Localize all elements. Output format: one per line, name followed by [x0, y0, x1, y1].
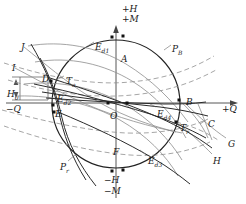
label-Ed1: Ed1	[95, 43, 109, 54]
gray-curve-J	[24, 47, 176, 132]
marker-pt-origin-1	[107, 102, 110, 105]
label-A-text: A	[121, 54, 128, 64]
label-F: F	[113, 148, 119, 157]
label-O-text: O	[110, 111, 117, 121]
label-J-text: J	[21, 42, 25, 52]
label-E-text: E	[55, 109, 62, 119]
label-Ed1-text: E	[95, 42, 102, 52]
label-PB: PB	[172, 45, 182, 56]
label-Ed2-text: E	[57, 94, 64, 104]
axis-label-minus-h: −H	[104, 176, 119, 185]
marker-pt-bot-1	[111, 170, 114, 173]
marker-pt-bot-2	[122, 169, 125, 172]
label-G-text: G	[228, 139, 235, 149]
marker-pt-origin-2	[126, 102, 129, 105]
marker-pt-B	[178, 99, 181, 102]
label-B-text: B	[186, 97, 193, 107]
leader-PB	[164, 45, 171, 50]
axis-label-minus-q: −Q	[6, 105, 21, 114]
label-H-text: H	[213, 156, 221, 166]
label-Tr: Tr	[180, 124, 189, 135]
label-B: B	[186, 98, 193, 107]
label-Pr-subscript: r	[66, 167, 69, 174]
label-A: A	[121, 55, 128, 64]
label-H: H	[213, 157, 221, 166]
label-D: D	[42, 75, 49, 84]
diagram-canvas	[0, 0, 246, 204]
marker-pt-E	[52, 104, 55, 107]
label-H0: H0	[7, 90, 19, 101]
axis-label-plus-h: +H	[122, 5, 137, 14]
label-Ed3-text: E	[148, 156, 155, 166]
label-F-text: F	[113, 147, 119, 157]
axis-label-plus-m: +M	[122, 15, 139, 24]
label-Ed4-subscript: d4	[164, 114, 172, 121]
leader-line-group	[56, 42, 206, 161]
label-C: C	[208, 120, 215, 129]
label-I: I	[12, 64, 16, 73]
label-Ed2-subscript: d2	[64, 99, 72, 106]
label-Ed1-subscript: d1	[102, 47, 110, 54]
marker-pt-top-2	[122, 35, 125, 38]
marker-pt-top-1	[111, 36, 114, 39]
axis-label-plus-q: +Q	[222, 105, 237, 114]
label-Ed3: Ed3	[148, 157, 162, 168]
label-Ed4-text: E	[157, 109, 164, 119]
label-I-text: I	[12, 63, 16, 73]
label-H0-subscript: 0	[15, 94, 19, 101]
phasor-circle-diagram: +H +M −H −M −Q +Q JIEd1APBDTaEd2EOH0BEd4…	[0, 0, 246, 204]
label-H0-text: H	[7, 89, 15, 99]
label-Ed3-subscript: d3	[155, 161, 163, 168]
axis-label-minus-m: −M	[104, 187, 121, 196]
label-C-text: C	[208, 119, 215, 129]
label-D-text: D	[42, 74, 49, 84]
dark-curve-Ta-sweep	[50, 78, 212, 148]
leader-Ed3	[140, 150, 146, 155]
label-G: G	[228, 140, 235, 149]
label-Ta-subscript: a	[72, 81, 76, 88]
label-E: E	[55, 110, 62, 119]
label-O: O	[110, 112, 117, 121]
label-PB-subscript: B	[178, 49, 182, 56]
label-Ta: Ta	[66, 77, 76, 88]
label-Ed4: Ed4	[157, 110, 171, 121]
label-Ed2: Ed2	[57, 95, 71, 106]
marker-pt-D	[50, 80, 53, 83]
label-J: J	[21, 43, 25, 52]
marker-pt-Tr	[175, 121, 178, 124]
label-Tr-subscript: r	[186, 128, 189, 135]
vertical-axis-arrowhead	[113, 25, 119, 33]
label-Pr: Pr	[60, 163, 69, 174]
